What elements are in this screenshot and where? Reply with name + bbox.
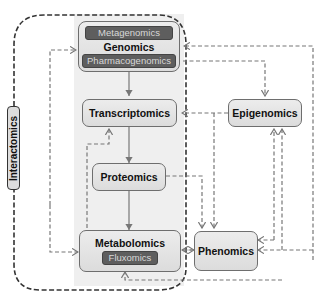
- omics-diagram: Metagenomics Genomics Pharmacogenomics T…: [0, 0, 325, 302]
- metagenomics-label[interactable]: Metagenomics: [85, 26, 173, 40]
- genomics-label: Genomics: [104, 41, 155, 53]
- proteomics-node[interactable]: Proteomics: [92, 163, 166, 191]
- genomics-node[interactable]: Metagenomics Genomics Pharmacogenomics: [78, 21, 180, 72]
- metabolomics-label: Metabolomics: [95, 237, 165, 249]
- metabolomics-node[interactable]: Metabolomics Fluxomics: [79, 230, 181, 272]
- interactomics-label: Interactomics: [8, 115, 19, 180]
- fluxomics-label[interactable]: Fluxomics: [102, 251, 158, 265]
- pharmacogenomics-label[interactable]: Pharmacogenomics: [82, 54, 176, 68]
- phenomics-node[interactable]: Phenomics: [194, 231, 258, 271]
- phenomics-label: Phenomics: [198, 245, 254, 257]
- interactomics-node[interactable]: Interactomics: [7, 106, 20, 190]
- proteomics-label: Proteomics: [100, 171, 157, 183]
- transcriptomics-label: Transcriptomics: [89, 107, 170, 119]
- transcriptomics-node[interactable]: Transcriptomics: [82, 99, 177, 127]
- epigenomics-label: Epigenomics: [232, 107, 297, 119]
- epigenomics-node[interactable]: Epigenomics: [228, 99, 302, 127]
